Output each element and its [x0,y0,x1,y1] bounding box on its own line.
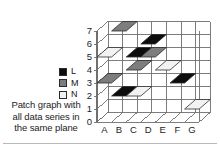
data-patch-m [112,22,138,32]
grid-left-depth [97,22,108,32]
grid-floor-depth [112,113,123,123]
grid-floor-depth [199,113,210,123]
data-patch-l [141,35,167,45]
data-patch-m [126,61,152,71]
legend-label-n: N [71,90,78,99]
grid-floor-depth [185,113,196,123]
legend-label-l: L [71,67,76,76]
legend-swatch-n [59,91,67,99]
grid-floor-depth [155,113,166,123]
x-tick-label: E [160,124,166,135]
y-tick-label: 3 [87,77,92,88]
data-patch-n [185,100,211,110]
y-tick-label: 0 [87,116,92,127]
data-patch-n [97,48,123,58]
x-tick-label: C [130,124,137,135]
legend-label-m: M [71,79,79,88]
grid-left-depth [97,113,108,123]
y-tick-label: 2 [87,90,92,101]
grid-floor-depth [170,113,181,123]
data-patch-n [155,61,181,71]
legend-swatch-l [59,68,67,76]
grid-left-depth [97,87,108,97]
figure-caption: Patch graph with all data series in the … [0,99,92,134]
patch-graph-svg: 01234567 ABCDEFG [80,6,220,140]
grid-left-depth [97,100,108,110]
caption-line-3: the same plane [0,122,92,134]
x-tick-label: B [116,124,122,135]
bottom-divider [3,143,217,144]
patch-graph-figure: Patch graph with all data series in the … [0,0,220,149]
y-tick-label: 4 [87,64,92,75]
y-axis-tick-labels: 01234567 [87,25,97,127]
y-tick-label: 6 [87,38,92,49]
x-tick-label: G [188,124,195,135]
grid-left-depth [97,35,108,45]
plot-area: 01234567 ABCDEFG [80,6,220,140]
y-tick-label: 7 [87,25,92,36]
x-tick-label: F [174,124,180,135]
legend-swatch-m [59,79,67,87]
x-tick-label: A [101,124,108,135]
grid-left-depth [97,61,108,71]
caption-line-2: all data series in [0,111,92,123]
data-patch-m [97,74,123,84]
grid-floor-depth [141,113,152,123]
data-patch-l [170,74,196,84]
y-tick-label: 5 [87,51,92,62]
grid-floor-depth [126,113,137,123]
x-tick-label: D [145,124,152,135]
x-axis-tick-labels: ABCDEFG [101,124,195,135]
y-tick-label: 1 [87,103,92,114]
caption-line-1: Patch graph with [0,99,92,111]
